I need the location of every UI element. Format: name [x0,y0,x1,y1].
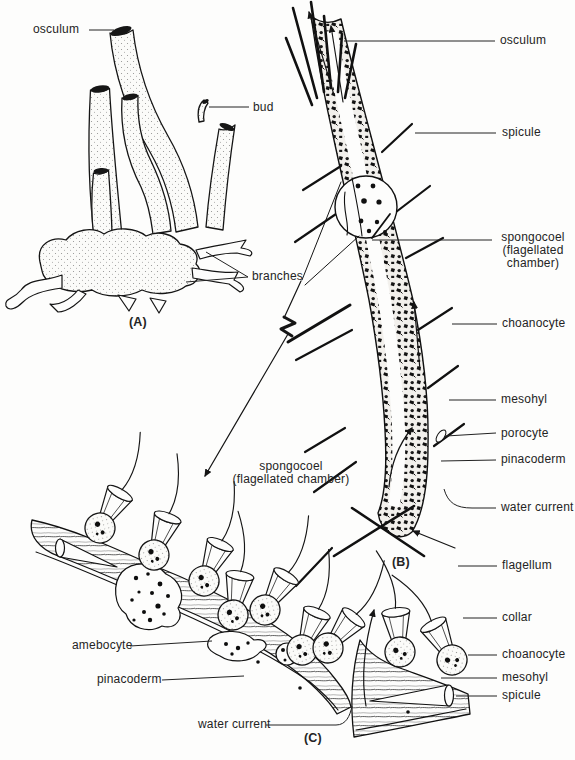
panel-a-whole-sponge [6,24,252,313]
leader-c-amebocyte [130,641,212,646]
label-a-branches: branches [252,270,303,283]
label-a-osculum: osculum [33,23,79,36]
leader-c-pinacoderm [162,676,244,680]
leader-b-pinacoderm [441,460,496,461]
label-c-spicule: spicule [502,689,541,702]
label-c-spongocoel: spongocoel (flagellated chamber) [230,460,352,486]
figure-page: osculum bud branches (A) osculum spicule… [0,0,575,760]
label-c-collar: collar [502,611,532,624]
choanocyte-cell [80,431,165,548]
panel-tag-a: (A) [129,316,147,329]
label-b-choanocyte: choanocyte [502,317,565,330]
label-b-spongocoel-line2: (flagellated [502,243,563,257]
label-b-spongocoel-line3: chamber) [507,256,559,270]
label-b-pinacoderm: pinacoderm [501,453,566,466]
pinacocyte-nucleus-right [406,710,410,714]
label-c-water-current: water current [198,718,271,731]
panel-tag-b: (B) [392,556,410,569]
label-c-pinacoderm: pinacoderm [97,673,162,686]
choanocyte-cell [135,453,204,574]
label-b-spongocoel: spongocoel (flagellated chamber) [494,231,572,270]
leader-b-water-current [444,489,496,508]
tube-small-front [92,170,112,239]
label-b-porocyte: porocyte [501,427,549,440]
panel-b-longitudinal-section [205,2,464,586]
leader-b-porocyte [446,433,496,436]
label-b-osculum: osculum [500,34,546,47]
label-b-mesohyl: mesohyl [501,393,547,406]
label-c-spongocoel-line1: spongocoel [259,459,322,473]
label-a-bud: bud [253,101,274,114]
panel-tag-c: (C) [304,732,322,745]
tube-right [206,125,235,230]
label-c-spongocoel-line2: (flagellated chamber) [233,472,350,486]
break-bolt [281,317,295,336]
label-c-flagellum: flagellum [502,559,552,572]
label-c-choanocyte: choanocyte [502,648,565,661]
magnification-arrow [205,281,301,476]
label-b-water-current: water current [501,501,574,514]
label-c-amebocyte: amebocyte [72,639,133,652]
label-c-mesohyl: mesohyl [502,671,548,684]
label-b-spicule: spicule [502,126,541,139]
sponge-body-wall [311,16,428,537]
basal-mass [39,229,199,296]
sponge-tubes [89,30,235,246]
label-b-spongocoel-line1: spongocoel [501,230,564,244]
